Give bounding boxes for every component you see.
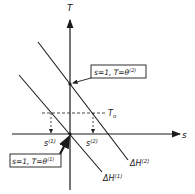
callout-theta2: s=1, T=θ(2) bbox=[73, 65, 146, 83]
t-axis: T bbox=[67, 3, 74, 190]
theta1-point bbox=[68, 132, 71, 135]
s1-label: s(1) bbox=[44, 138, 56, 148]
t0-reference-line: To bbox=[42, 109, 117, 119]
t0-label: To bbox=[108, 109, 117, 119]
delta-h1-label: ΔH(1) bbox=[102, 173, 122, 183]
s1-marker: s(1) bbox=[44, 113, 56, 148]
delta-h2-line: ΔH(2) bbox=[38, 42, 149, 168]
delta-h2-label: ΔH(2) bbox=[129, 158, 149, 168]
s-axis-label: s bbox=[182, 130, 187, 140]
s2-label: s(2) bbox=[86, 138, 98, 148]
s-axis: s bbox=[12, 130, 187, 140]
theta2-point bbox=[68, 82, 71, 85]
phase-diagram: T s ΔH(2) ΔH(1) To s(1) s(2) s=1, T=θ(2) bbox=[0, 0, 195, 194]
t-axis-label: T bbox=[67, 3, 74, 13]
callout-theta1: s=1, T=θ(1) bbox=[10, 137, 69, 167]
